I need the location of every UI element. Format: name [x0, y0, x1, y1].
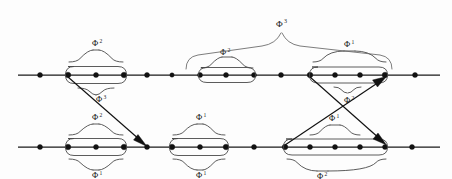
label-bottom-middle-above-sup: 1 [204, 112, 207, 118]
label-top-left-above-sup: 2 [100, 38, 103, 44]
node-dot [282, 144, 288, 150]
label-arrow-phi3-sup: 3 [104, 94, 107, 100]
node-dot [308, 145, 313, 150]
bottom-line-dots [38, 144, 415, 150]
top-right-brace-above [313, 51, 386, 62]
phi-diagram-figure: Φ 2 Φ 2 Φ 1 Φ 2 Φ 3 Φ 2 Φ 1 Φ 1 [0, 0, 452, 179]
arrow-phi3-shaft [68, 77, 140, 140]
node-dot [333, 145, 338, 150]
label-bottom-middle-below: Φ [196, 170, 202, 179]
node-dot [279, 73, 284, 78]
node-dot [358, 145, 363, 150]
label-bottom-right-below-sup: 2 [325, 171, 328, 177]
label-bottom-middle-below-sup: 1 [204, 170, 207, 176]
arrow-down-right [310, 77, 387, 145]
top-line-group [18, 72, 440, 78]
top-line-dots [38, 72, 418, 78]
arrow-up-right-shaft [285, 82, 379, 145]
node-dot [410, 145, 415, 150]
node-dot [358, 73, 363, 78]
node-dot [198, 145, 203, 150]
top-right-brace-below [334, 87, 361, 93]
arrow-down-right-shaft [310, 77, 380, 139]
node-dot [38, 145, 43, 150]
node-dot [333, 73, 338, 78]
bottom-middle-brace-above [173, 124, 225, 135]
node-dot [145, 73, 150, 78]
label-bottom-left-above-sup: 2 [100, 112, 103, 118]
label-top-right-above-sup: 1 [352, 39, 355, 45]
node-dot [94, 73, 99, 78]
label-bottom-left-above: Φ [92, 112, 98, 122]
label-top-right-above: Φ [344, 39, 350, 49]
bottom-right-brace-above [310, 125, 360, 135]
arrow-phi3 [68, 77, 147, 147]
bottom-left-brace-below [69, 159, 123, 170]
top-middle-brace [201, 57, 253, 68]
label-bottom-left-below: Φ [92, 170, 98, 179]
top-left-brace-above [69, 50, 123, 62]
node-dot [38, 73, 43, 78]
label-big-phi3: Φ [276, 19, 283, 29]
bottom-left-brace-above [69, 124, 123, 135]
bottom-line-group [18, 144, 440, 150]
label-bottom-right-above-sup: 1 [337, 113, 340, 119]
label-top-left-above: Φ [92, 38, 98, 48]
node-dot [224, 73, 229, 78]
bottom-middle-brace-below [173, 159, 225, 170]
node-dot [252, 145, 257, 150]
label-arrow-phi3: Φ [96, 94, 102, 104]
label-top-middle-sup: 2 [228, 47, 231, 53]
node-dot [170, 73, 174, 77]
diagram-canvas: Φ 2 Φ 2 Φ 1 Φ 2 Φ 3 Φ 2 Φ 1 Φ 1 [0, 0, 452, 179]
label-bottom-middle-above: Φ [196, 112, 202, 122]
label-big-phi3-sup: 3 [284, 18, 287, 24]
node-dot [413, 73, 418, 78]
label-bottom-left-below-sup: 1 [100, 170, 103, 176]
node-dot [94, 145, 99, 150]
label-bottom-right-below: Φ [317, 171, 323, 179]
bottom-right-brace-below [287, 159, 386, 171]
